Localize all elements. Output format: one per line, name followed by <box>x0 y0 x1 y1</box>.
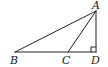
point-label-b: B <box>10 55 18 66</box>
point-label-d: D <box>91 55 100 66</box>
segment-ac <box>68 11 96 52</box>
point-label-c: C <box>62 55 70 66</box>
triangle-diagram: A B C D <box>0 0 108 67</box>
segment-ab <box>15 11 96 52</box>
right-angle-marker-icon <box>91 47 96 52</box>
point-label-a: A <box>92 0 100 11</box>
